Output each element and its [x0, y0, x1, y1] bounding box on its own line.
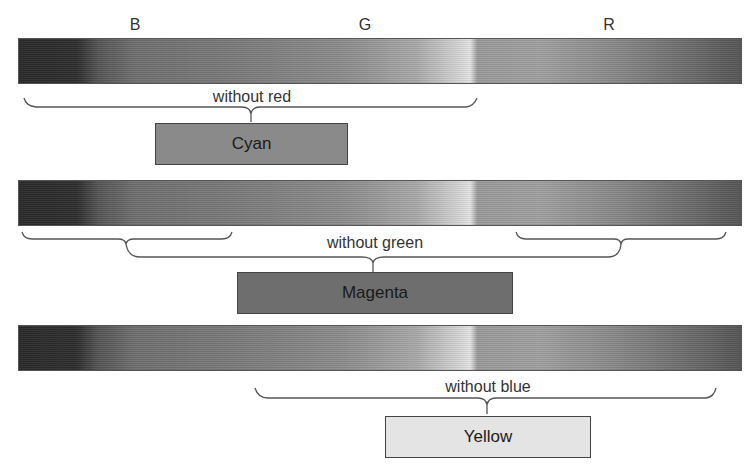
band-label-red: R	[603, 16, 615, 34]
result-label-yellow: Yellow	[464, 427, 513, 447]
label-without-red: without red	[213, 88, 291, 106]
result-box-magenta: Magenta	[237, 272, 513, 314]
brace-red-segment	[516, 232, 726, 244]
result-box-cyan: Cyan	[155, 123, 348, 165]
band-label-blue: B	[130, 16, 141, 34]
result-label-cyan: Cyan	[232, 134, 272, 154]
label-without-blue: without blue	[445, 378, 530, 396]
spectrum-bar-magenta-row	[18, 180, 742, 226]
result-label-magenta: Magenta	[342, 283, 408, 303]
result-box-yellow: Yellow	[385, 416, 591, 458]
label-without-green: without green	[327, 234, 423, 252]
spectrum-bar-yellow-row	[18, 325, 742, 371]
spectrum-bar-cyan-row	[18, 38, 742, 84]
band-label-green: G	[359, 16, 371, 34]
brace-blue-segment	[22, 232, 232, 244]
